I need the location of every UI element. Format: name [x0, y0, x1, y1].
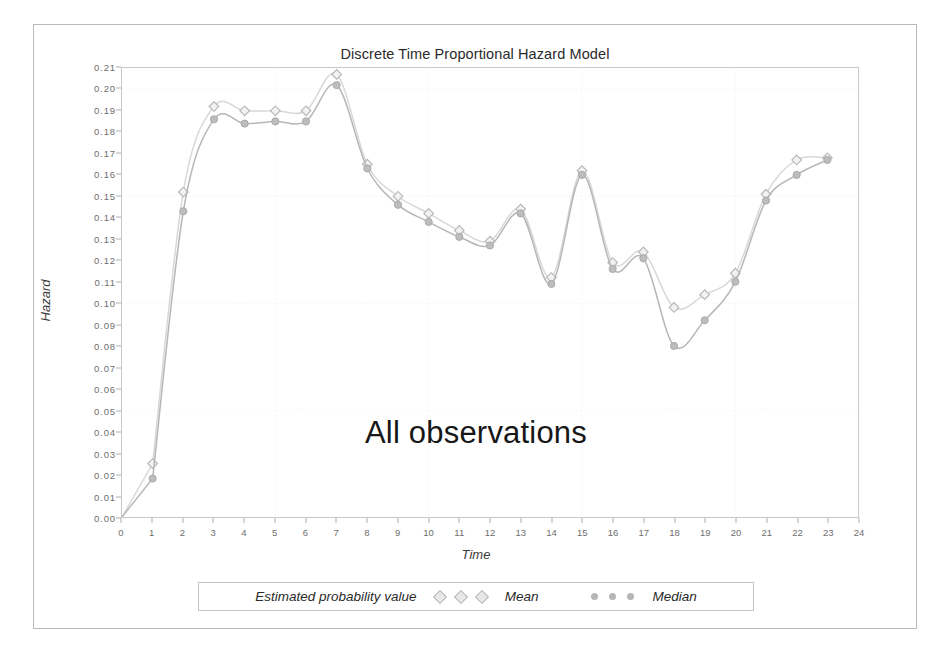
- y-tick-mark: [116, 260, 121, 261]
- data-point-mean: [148, 459, 158, 469]
- data-point-median: [762, 197, 769, 204]
- y-tick-mark: [116, 281, 121, 282]
- x-tick-label: 13: [515, 527, 526, 538]
- x-tick-label: 2: [180, 527, 185, 538]
- y-tick-label: 0.10: [94, 298, 116, 309]
- data-point-median: [793, 171, 800, 178]
- y-tick-mark: [116, 88, 121, 89]
- data-point-median: [272, 118, 279, 125]
- data-point-mean: [424, 209, 434, 219]
- data-point-median: [302, 118, 309, 125]
- y-tick-label: 0.20: [94, 83, 116, 94]
- circle-marker-icon: [591, 593, 598, 600]
- y-tick-label: 0.18: [94, 126, 116, 137]
- y-tick-mark: [116, 303, 121, 304]
- y-tick-mark: [116, 152, 121, 153]
- data-point-median: [364, 165, 371, 172]
- y-tick-mark: [116, 109, 121, 110]
- data-point-mean: [700, 290, 710, 300]
- y-tick-mark: [116, 475, 121, 476]
- data-point-median: [333, 82, 340, 89]
- x-tick-label: 9: [395, 527, 400, 538]
- legend-label-median: Median: [652, 589, 696, 604]
- data-point-median: [640, 255, 647, 262]
- x-tick-label: 6: [303, 527, 308, 538]
- chart-title: Discrete Time Proportional Hazard Model: [34, 46, 916, 62]
- plot-annotation: All observations: [34, 415, 918, 451]
- x-tick-label: 5: [272, 527, 277, 538]
- x-tick-label: 10: [423, 527, 434, 538]
- x-tick-label: 19: [700, 527, 711, 538]
- data-point-median: [210, 116, 217, 123]
- y-tick-label: 0.06: [94, 384, 116, 395]
- y-tick-label: 0.19: [94, 104, 116, 115]
- y-tick-label: 0.16: [94, 169, 116, 180]
- circle-marker-icon: [609, 593, 616, 600]
- diamond-marker-icon: [454, 589, 468, 603]
- data-point-mean: [271, 106, 281, 116]
- x-tick-label: 21: [761, 527, 772, 538]
- y-tick-mark: [116, 131, 121, 132]
- legend-label-mean: Mean: [505, 589, 539, 604]
- x-tick-label: 18: [669, 527, 680, 538]
- diamond-marker-icon: [433, 589, 447, 603]
- data-point-median: [149, 475, 156, 482]
- legend-title: Estimated probability value: [255, 589, 416, 604]
- y-tick-label: 0.11: [95, 276, 116, 287]
- data-point-mean: [792, 155, 802, 165]
- y-tick-mark: [116, 346, 121, 347]
- y-tick-label: 0.21: [94, 62, 116, 73]
- data-point-median: [824, 156, 831, 163]
- x-tick-label: 11: [454, 527, 464, 538]
- x-tick-label: 14: [546, 527, 557, 538]
- data-point-median: [241, 120, 248, 127]
- y-tick-label: 0.12: [94, 255, 116, 266]
- x-tick-label: 4: [241, 527, 246, 538]
- data-point-median: [425, 218, 432, 225]
- y-tick-label: 0.15: [94, 190, 116, 201]
- y-tick-label: 0.02: [94, 470, 116, 481]
- y-tick-mark: [116, 217, 121, 218]
- x-tick-label: 3: [211, 527, 216, 538]
- y-tick-mark: [116, 410, 121, 411]
- x-axis-tick-labels: 0123456789101112131415161718192021222324: [121, 523, 859, 545]
- data-point-median: [394, 201, 401, 208]
- x-tick-label: 15: [577, 527, 588, 538]
- diamond-marker-icon: [475, 589, 489, 603]
- data-point-median: [180, 208, 187, 215]
- x-tick-label: 20: [731, 527, 742, 538]
- data-point-median: [548, 280, 555, 287]
- y-tick-label: 0.09: [94, 319, 116, 330]
- data-point-median: [732, 278, 739, 285]
- circle-marker-icon: [627, 593, 634, 600]
- data-point-median: [517, 210, 524, 217]
- y-tick-label: 0.07: [94, 362, 116, 373]
- y-axis-title: Hazard: [38, 280, 53, 322]
- data-point-median: [701, 317, 708, 324]
- y-tick-label: 0.13: [94, 233, 116, 244]
- data-point-median: [486, 242, 493, 249]
- x-tick-label: 7: [334, 527, 339, 538]
- x-tick-label: 23: [823, 527, 834, 538]
- y-tick-label: 0.17: [94, 147, 116, 158]
- legend-marker-median: [591, 593, 634, 600]
- x-tick-label: 8: [364, 527, 369, 538]
- chart-legend: Estimated probability value Mean Median: [198, 582, 754, 611]
- x-tick-label: 17: [638, 527, 649, 538]
- data-point-median: [456, 233, 463, 240]
- series-line-mean: [153, 73, 828, 463]
- series-baseline-mean: [122, 464, 153, 517]
- data-point-median: [578, 171, 585, 178]
- y-tick-mark: [116, 238, 121, 239]
- x-axis-title: Time: [34, 547, 918, 562]
- y-tick-mark: [116, 453, 121, 454]
- y-tick-mark: [116, 367, 121, 368]
- series-baseline-median: [122, 479, 153, 517]
- x-tick-label: 0: [118, 527, 123, 538]
- x-tick-label: 12: [485, 527, 496, 538]
- y-tick-mark: [116, 67, 121, 68]
- data-point-mean: [240, 106, 250, 116]
- x-tick-label: 24: [854, 527, 865, 538]
- figure-panel: Discrete Time Proportional Hazard Model …: [33, 24, 917, 629]
- y-tick-label: 0.08: [94, 341, 116, 352]
